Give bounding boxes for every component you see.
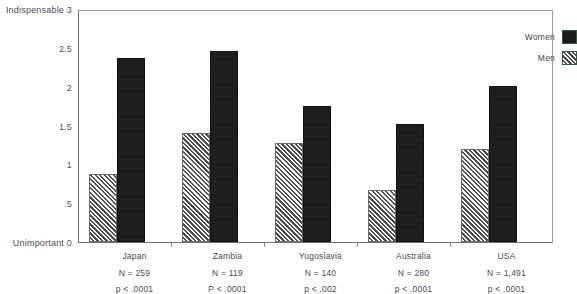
y-axis: Indispensable 3 2.5 2 1.5 1 .5 Unimporta…: [0, 0, 78, 288]
bar-australia-men: [368, 190, 396, 242]
group-p-zambia: P < .0001: [181, 285, 274, 294]
bar-yugoslavia-men: [275, 143, 303, 242]
group-n-australia: N = 280: [367, 269, 460, 278]
legend-label-men: Men: [538, 53, 555, 63]
group-name-zambia: Zambia: [181, 252, 274, 261]
x-axis-group-zambia: Zambia N = 119 P < .0001: [181, 245, 274, 294]
legend-label-women: Women: [525, 32, 555, 42]
y-axis-top-anchor-text: Indispensable: [6, 5, 64, 15]
y-axis-top-anchor-label: Indispensable 3: [6, 5, 72, 15]
bar-japan-women: [117, 58, 145, 242]
group-n-yugoslavia: N = 140: [274, 269, 367, 278]
legend-item-women: Women: [467, 29, 577, 44]
bar-yugoslavia-women: [303, 106, 331, 242]
group-name-yugoslavia: Yugoslavia: [274, 252, 367, 261]
group-name-usa: USA: [460, 252, 553, 261]
x-axis-group-australia: Australia N = 280 p < .0001: [367, 245, 460, 294]
group-n-japan: N = 259: [88, 269, 181, 278]
legend-swatch-men: [562, 51, 577, 65]
y-axis-bottom-anchor-text: Unimportant: [13, 238, 64, 248]
legend-item-men: Men: [467, 50, 577, 65]
x-axis-group-usa: USA N = 1,491 p < .0001: [460, 245, 553, 294]
legend-swatch-women: [562, 30, 577, 44]
bar-zambia-women: [210, 51, 238, 242]
y-axis-bottom-anchor-label: Unimportant 0: [13, 238, 72, 248]
y-tick-label-1: 1: [67, 160, 72, 170]
y-tick-label-0: 0: [67, 238, 72, 248]
group-p-japan: p < .0001: [88, 285, 181, 294]
group-name-australia: Australia: [367, 252, 460, 261]
plot-area: Women Men: [78, 10, 553, 243]
legend: Women Men: [467, 29, 577, 71]
bar-japan-men: [89, 174, 117, 242]
group-name-japan: Japan: [88, 252, 181, 261]
bar-usa-men: [461, 149, 489, 242]
y-tick-label-2-5: 2.5: [59, 44, 72, 54]
bar-usa-women: [489, 86, 517, 242]
bar-zambia-men: [182, 133, 210, 242]
group-n-zambia: N = 119: [181, 269, 274, 278]
group-n-usa: N = 1,491: [460, 269, 553, 278]
bar-australia-women: [396, 124, 424, 242]
y-tick-label-2: 2: [67, 83, 72, 93]
group-p-australia: p < .0001: [367, 285, 460, 294]
y-tick-label-1-5: 1.5: [59, 122, 72, 132]
group-p-yugoslavia: p < .002: [274, 285, 367, 294]
group-p-usa: p < .0001: [460, 285, 553, 294]
y-tick-label-3: 3: [67, 5, 72, 15]
x-axis-group-japan: Japan N = 259 p < .0001: [88, 245, 181, 294]
y-tick-label-0-5: .5: [64, 199, 72, 209]
x-axis-group-yugoslavia: Yugoslavia N = 140 p < .002: [274, 245, 367, 294]
